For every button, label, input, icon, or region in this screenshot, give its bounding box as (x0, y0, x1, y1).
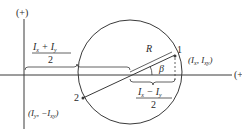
half-difference-brace (130, 79, 175, 85)
vertical-axis-plus-label: (+) (16, 7, 28, 19)
point-2-label: 2 (74, 92, 79, 103)
horizontal-axis-plus-label: (+) (234, 69, 242, 81)
angle-beta-label: β (158, 63, 164, 74)
point-1-label: 1 (177, 44, 182, 55)
radius-label: R (145, 43, 152, 54)
mohr-circle-diagram: (+) (+) 1 (Ix, Ixy) 2 (Iy, −Ixy) R β Ix … (0, 0, 242, 137)
half-difference-numerator: Ix − Iy (137, 86, 162, 98)
center-offset-brace (25, 64, 130, 70)
point-2-marker (82, 97, 85, 100)
center-offset-numerator: Ix + Iy (32, 41, 57, 53)
angle-arc (150, 66, 152, 75)
half-difference-denominator: 2 (151, 99, 156, 110)
center-offset-denominator: 2 (48, 54, 53, 65)
point-2-coords: (Iy, −Ixy) (28, 108, 59, 119)
point-1-coords: (Ix, Ixy) (188, 55, 213, 66)
